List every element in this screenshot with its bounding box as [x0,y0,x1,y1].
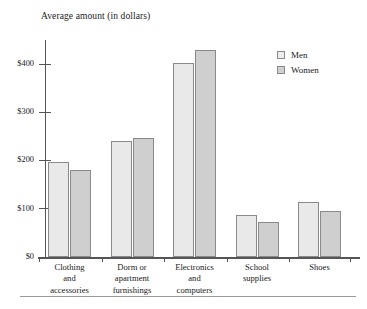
legend-swatch-men-icon [277,51,285,59]
legend-label-women: Women [291,65,319,75]
y-tick-label: $300 [6,108,34,116]
y-tick-mark [39,64,51,65]
x-category-label: Shoes [289,262,351,273]
y-axis-title: Average amount (in dollars) [41,11,150,21]
bar-women [195,50,216,257]
y-tick-label: $400 [6,60,34,68]
y-axis-line [45,40,46,258]
bar-men [111,141,132,257]
x-category-label: Dorm or apartment furnishings [101,262,163,296]
bar-men [48,162,69,257]
bar-women [258,222,279,257]
y-tick-label: $0 [6,253,34,261]
cropped-title-remnant [70,0,290,3]
bar-men [298,202,319,257]
chart-legend: Men Women [277,49,319,79]
legend-item-men: Men [277,49,319,61]
bar-women [320,211,341,257]
bar-men [173,63,194,257]
y-tick-mark [39,160,51,161]
bar-chart-figure: Average amount (in dollars) $0$100$200$3… [0,0,367,309]
x-category-label: Electronics and computers [164,262,226,296]
y-tick-label: $100 [6,205,34,213]
y-tick-label: $200 [6,156,34,164]
x-category-label: School supplies [226,262,288,285]
x-axis-line [38,257,360,259]
bar-men [236,215,257,257]
legend-item-women: Women [277,64,319,76]
footer-divider [20,296,356,297]
bar-women [133,138,154,257]
legend-swatch-women-icon [277,66,285,74]
y-tick-mark [39,112,51,113]
legend-label-men: Men [291,50,308,60]
x-category-label: Clothing and accessories [39,262,101,296]
bar-women [70,170,91,257]
